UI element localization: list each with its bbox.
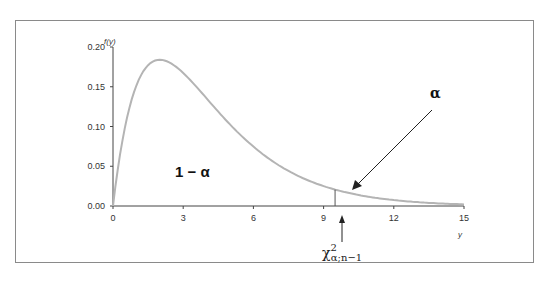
x-axis-title: y: [457, 230, 463, 239]
y-tick-label: 0.15: [87, 82, 105, 92]
density-curve: [113, 60, 464, 206]
x-tick-label: 12: [389, 213, 399, 223]
chi-square-density-chart: 036912150.000.050.100.150.20 f(y) y 1 − …: [0, 0, 549, 281]
y-axis-title: f(y): [104, 37, 116, 46]
area-label-one-minus-alpha: 1 − α: [175, 163, 210, 180]
critical-value-label: χ2α;n−1: [322, 242, 362, 263]
y-tick-label: 0.00: [87, 201, 105, 211]
y-tick-label: 0.05: [87, 161, 105, 171]
x-tick-label: 6: [251, 213, 256, 223]
x-tick-label: 15: [459, 213, 469, 223]
y-tick-label: 0.10: [87, 122, 105, 132]
critical-value-arrowhead: [339, 215, 345, 223]
area-label-alpha: α: [430, 85, 441, 101]
alpha-arrow: [357, 110, 432, 185]
y-tick-label: 0.20: [87, 42, 105, 52]
x-tick-label: 3: [181, 213, 186, 223]
x-tick-label: 9: [321, 213, 326, 223]
x-tick-label: 0: [110, 213, 115, 223]
